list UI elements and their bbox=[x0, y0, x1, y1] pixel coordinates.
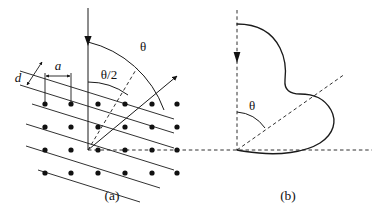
lattice-atom bbox=[149, 124, 154, 129]
lattice-atom bbox=[42, 170, 47, 175]
lattice-atom bbox=[42, 147, 47, 152]
label-theta-a: θ bbox=[140, 39, 146, 54]
intensity-curve bbox=[237, 24, 334, 154]
lattice-atoms bbox=[42, 101, 179, 175]
lattice-atom bbox=[149, 170, 154, 175]
lattice-planes bbox=[20, 71, 174, 202]
figure-container: d a θ θ/2 (a) bbox=[0, 0, 372, 216]
lattice-atom bbox=[174, 124, 179, 129]
lattice-atom bbox=[95, 124, 100, 129]
lattice-atom bbox=[122, 170, 127, 175]
theta-arc-b bbox=[237, 112, 265, 128]
theta-arc bbox=[88, 42, 164, 110]
lattice-atom bbox=[68, 170, 73, 175]
lattice-atom bbox=[174, 101, 179, 106]
lattice-atom bbox=[174, 170, 179, 175]
label-a: a bbox=[55, 58, 62, 73]
scattering-diagram: d a θ θ/2 (a) bbox=[0, 0, 372, 216]
label-theta-half: θ/2 bbox=[101, 67, 117, 82]
lattice-plane-line bbox=[26, 124, 174, 170]
lattice-atom bbox=[42, 124, 47, 129]
caption-panel-b: (b) bbox=[280, 188, 296, 203]
caption-panel-a: (a) bbox=[105, 188, 120, 203]
lattice-atom bbox=[95, 170, 100, 175]
lattice-atom bbox=[95, 101, 100, 106]
lattice-atom bbox=[122, 101, 127, 106]
lattice-plane-line bbox=[20, 71, 174, 119]
panel-b: θ (b) bbox=[234, 10, 345, 203]
lattice-atom bbox=[68, 124, 73, 129]
label-d: d bbox=[15, 70, 22, 85]
panel-a: d a θ θ/2 (a) bbox=[15, 8, 372, 203]
label-theta-b: θ bbox=[249, 98, 255, 113]
lattice-atom bbox=[149, 101, 154, 106]
atomic-spacing-marker bbox=[45, 73, 71, 103]
incident-beam-arrowhead bbox=[84, 36, 91, 46]
incident-axis-arrowhead-b bbox=[234, 52, 241, 63]
lattice-atom bbox=[122, 124, 127, 129]
lattice-atom bbox=[68, 147, 73, 152]
scattered-beam bbox=[88, 76, 177, 150]
